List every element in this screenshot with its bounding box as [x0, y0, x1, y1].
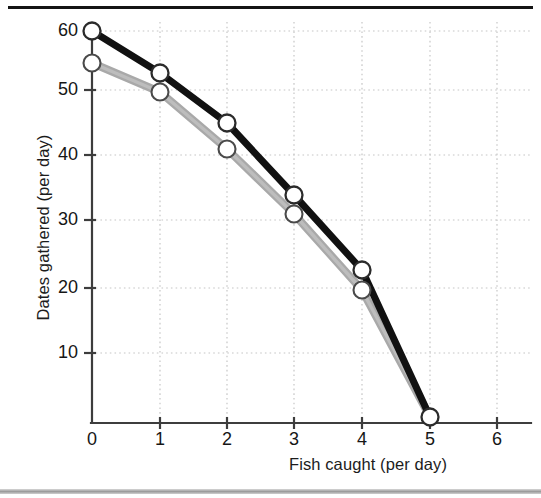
data-point: [354, 262, 371, 279]
series-line-inner-frontier-highlight: [92, 63, 430, 417]
x-tick-label-2: 2: [213, 429, 241, 450]
data-point: [219, 141, 236, 158]
x-tick-label-1: 1: [146, 429, 174, 450]
y-tick-label-60: 60: [32, 20, 78, 41]
data-point: [84, 55, 101, 72]
x-tick-label-3: 3: [280, 429, 308, 450]
y-axis-label: Dates gathered (per day): [34, 103, 53, 353]
plot-canvas: [0, 0, 541, 498]
x-tick-label-4: 4: [348, 429, 376, 450]
gridlines-vertical: [160, 22, 497, 420]
data-point: [219, 115, 236, 132]
x-tick-label-5: 5: [416, 429, 444, 450]
data-point: [354, 282, 371, 299]
x-axis-label: Fish caught (per day): [289, 455, 447, 474]
x-tick-label-0: 0: [78, 429, 106, 450]
chart-figure: 60 50 40 30 20 10 0 1 2 3 4 5 6 Dates ga…: [0, 0, 541, 498]
data-point: [84, 23, 101, 40]
y-tick-marks: [84, 90, 96, 353]
x-tick-label-6: 6: [483, 429, 511, 450]
bottom-divider-rule: [0, 489, 541, 494]
series-line-inner-frontier: [92, 63, 430, 417]
data-point-shared: [422, 409, 439, 426]
y-tick-label-50: 50: [32, 79, 78, 100]
data-point: [152, 84, 169, 101]
data-point: [286, 187, 303, 204]
data-point: [286, 206, 303, 223]
data-point: [152, 65, 169, 82]
